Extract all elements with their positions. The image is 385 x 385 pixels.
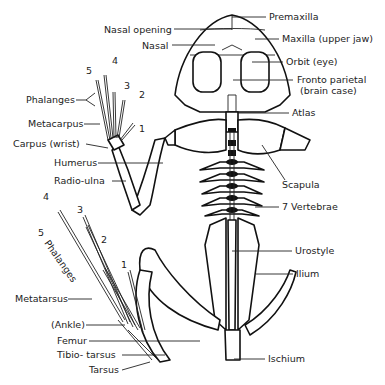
label-premaxilla: Premaxilla [269,11,319,22]
label-vertebrae: 7 Vertebrae [282,201,338,212]
vertebra [200,171,264,182]
forelimb [96,75,165,215]
fore-digit-2: 2 [139,89,145,100]
label-phalanges-fore: Phalanges [26,94,75,105]
label-scapula: Scapula [282,179,320,190]
vertebra [202,195,262,206]
label-ilium: Ilium [296,268,319,279]
label-atlas: Atlas [292,107,316,118]
hind-digit-4: 4 [43,191,49,202]
hind-digit-1: 1 [121,259,127,270]
label-metatarsus: Metatarsus [15,293,68,304]
label-radio-ulna: Radio-ulna [54,175,105,186]
label-urostyle: Urostyle [295,245,334,256]
hind-digit-2: 2 [101,234,107,245]
label-ankle: (Ankle) [51,319,85,330]
label-brain-case: (brain case) [300,85,357,96]
label-tarsus: Tarsus [88,364,119,375]
vertebra [205,207,259,216]
fore-digit-1: 1 [139,123,145,134]
label-humerus: Humerus [54,157,97,168]
skull [175,15,290,112]
pelvic-girdle [205,218,259,360]
hind-digit-5: 5 [38,227,44,238]
label-femur: Femur [57,335,87,346]
label-phalanges-hind: Phalanges [42,238,79,284]
fore-digit-5: 5 [86,65,92,76]
label-ischium: Ischium [268,353,305,364]
vertebra [200,159,264,170]
fore-digit-4: 4 [112,55,118,66]
hind-digit-3: 3 [77,204,83,215]
label-carpus: Carpus (wrist) [13,138,80,149]
label-nasal: Nasal [142,40,168,51]
vertebra [202,183,262,194]
label-metacarpus: Metacarpus [28,118,84,129]
pectoral-girdle [165,119,310,153]
fore-digit-3: 3 [124,80,130,91]
label-maxilla: Maxilla (upper jaw) [282,33,373,44]
frog-skeleton-diagram: 5 4 3 2 1 4 3 5 2 1 Nasal opening Nasal … [0,0,385,385]
label-nasal-opening: Nasal opening [104,24,172,35]
label-tibio-tarsus: Tibio- tarsus [56,349,116,360]
label-orbit: Orbit (eye) [286,56,338,67]
label-fronto-parietal: Fronto parietal [297,74,366,85]
